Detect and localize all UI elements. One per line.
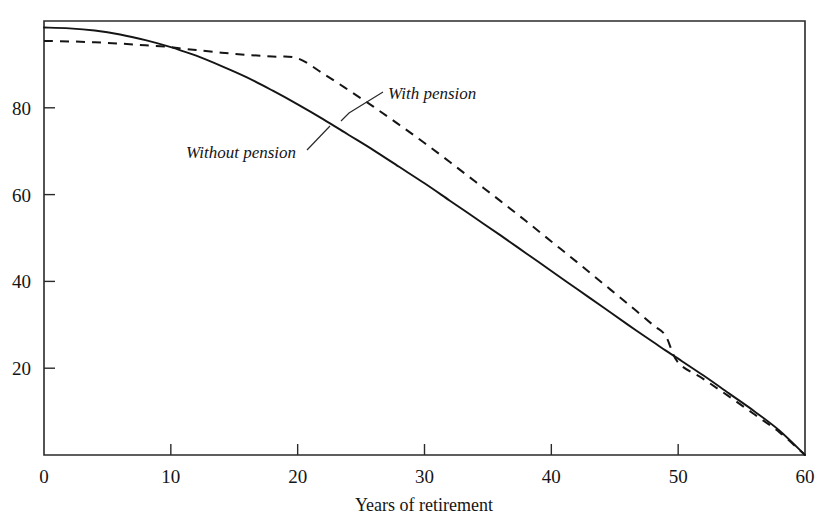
x-tick-label-10: 10	[161, 466, 180, 487]
y-tick-label-80: 80	[12, 98, 31, 119]
chart-canvas: 20406080 0102030405060 With pension With…	[0, 0, 832, 526]
y-axis-ticks	[44, 108, 55, 368]
x-axis-tick-labels: 0102030405060	[39, 466, 814, 487]
y-tick-label-20: 20	[12, 358, 31, 379]
series-line-with-pension	[44, 41, 805, 455]
figure-container: age of earnings replaced by pension and …	[0, 0, 832, 526]
x-tick-label-20: 20	[288, 466, 307, 487]
x-tick-label-30: 30	[415, 466, 434, 487]
x-tick-label-50: 50	[669, 466, 688, 487]
x-axis-title: Years of retirement	[355, 495, 493, 515]
y-tick-label-60: 60	[12, 185, 31, 206]
annotation-without-pension: Without pension	[186, 143, 296, 162]
x-axis-ticks	[171, 444, 678, 455]
x-tick-label-60: 60	[796, 466, 815, 487]
x-tick-label-40: 40	[542, 466, 561, 487]
y-axis-tick-labels: 20406080	[12, 98, 31, 379]
x-tick-label-0: 0	[39, 466, 49, 487]
leader-line-with-pension	[341, 92, 383, 121]
y-tick-label-40: 40	[12, 271, 31, 292]
leader-line-without-pension	[307, 126, 330, 150]
annotation-with-pension: With pension	[388, 84, 476, 103]
